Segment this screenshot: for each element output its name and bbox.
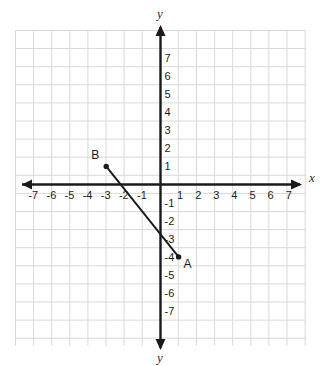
x-tick-label: 5 xyxy=(249,189,255,201)
y-tick-label: -6 xyxy=(165,287,175,299)
y-tick-label: 2 xyxy=(165,142,171,154)
y-tick-label: 5 xyxy=(165,88,171,100)
y-tick-label: 6 xyxy=(165,70,171,82)
x-tick-label: 6 xyxy=(268,189,274,201)
x-tick-label: -7 xyxy=(28,189,38,201)
x-axis-name-label: x xyxy=(308,170,315,185)
point-B xyxy=(104,164,109,169)
x-tick-label: 2 xyxy=(195,189,201,201)
x-tick-label: -3 xyxy=(101,189,111,201)
coordinate-plane-figure: -7-6-5-4-3-2-112345677654321-1-2-3-4-5-6… xyxy=(0,0,322,366)
x-tick-label: -4 xyxy=(83,189,93,201)
x-tick-label: 3 xyxy=(213,189,219,201)
point-A xyxy=(176,254,181,259)
y-tick-label: -2 xyxy=(165,215,175,227)
x-tick-label: -1 xyxy=(137,189,147,201)
y-tick-label: 1 xyxy=(165,160,171,172)
x-tick-label: 7 xyxy=(286,189,292,201)
point-label-A: A xyxy=(184,257,192,271)
x-tick-label: -6 xyxy=(47,189,57,201)
point-label-B: B xyxy=(91,148,99,162)
y-tick-label: -3 xyxy=(165,233,175,245)
y-tick-label: 4 xyxy=(165,106,171,118)
x-tick-label: 4 xyxy=(231,189,237,201)
y-axis-name-label-bottom: y xyxy=(155,350,163,365)
x-tick-label: -2 xyxy=(119,189,129,201)
y-tick-label: -1 xyxy=(165,197,175,209)
y-axis-name-label-top: y xyxy=(155,6,163,21)
coordinate-plane-svg: -7-6-5-4-3-2-112345677654321-1-2-3-4-5-6… xyxy=(0,0,322,366)
y-tick-label: -4 xyxy=(165,251,175,263)
y-tick-label: -5 xyxy=(165,269,175,281)
x-tick-label: -5 xyxy=(65,189,75,201)
y-tick-label: 3 xyxy=(165,124,171,136)
x-tick-label: 1 xyxy=(177,189,183,201)
y-tick-label: 7 xyxy=(165,52,171,64)
y-tick-label: -7 xyxy=(165,305,175,317)
